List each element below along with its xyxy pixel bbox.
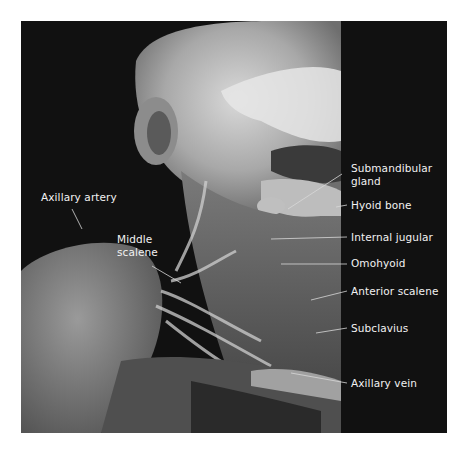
label-anterior-scalene: Anterior scalene — [351, 285, 439, 298]
label-submandibular-gland: Submandibular gland — [351, 162, 432, 188]
label-axillary-vein: Axillary vein — [351, 377, 417, 390]
anatomy-figure: Axillary artery Middle scalene Submandib… — [21, 21, 447, 433]
label-middle-scalene: Middle scalene — [117, 233, 158, 259]
label-internal-jugular: Internal jugular — [351, 231, 433, 244]
dissection-photo — [21, 21, 447, 433]
label-middle-scalene-line2: scalene — [117, 246, 158, 259]
label-subclavius: Subclavius — [351, 322, 408, 335]
label-hyoid-bone: Hyoid bone — [351, 199, 412, 212]
label-axillary-artery: Axillary artery — [41, 191, 117, 204]
label-submandibular-gland-line1: Submandibular — [351, 162, 432, 175]
label-middle-scalene-line1: Middle — [117, 233, 158, 246]
label-submandibular-gland-line2: gland — [351, 175, 432, 188]
label-omohyoid: Omohyoid — [351, 257, 406, 270]
